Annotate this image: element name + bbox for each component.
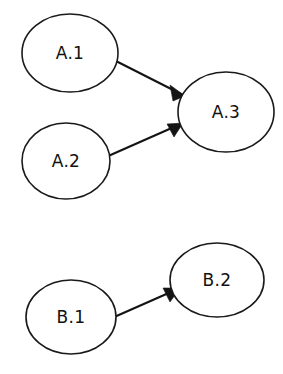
node-b2[interactable]: B.2 [170, 243, 264, 317]
node-a3-label: A.3 [212, 102, 240, 122]
graph-svg: A.1 A.2 A.3 B.1 B.2 [0, 0, 283, 374]
edge-b1-to-b2[interactable] [112, 288, 180, 318]
node-b1[interactable]: B.1 [26, 280, 116, 354]
edge-a2-to-a3[interactable] [106, 123, 183, 157]
edge-a1-to-a3[interactable] [110, 58, 185, 101]
node-a2[interactable]: A.2 [22, 123, 110, 199]
node-a1[interactable]: A.1 [22, 14, 118, 92]
node-b2-label: B.2 [203, 270, 232, 290]
node-b1-label: B.1 [57, 307, 86, 327]
diagram-canvas: A.1 A.2 A.3 B.1 B.2 [0, 0, 283, 374]
node-a1-label: A.1 [56, 43, 84, 63]
node-a2-label: A.2 [52, 151, 80, 171]
node-a3[interactable]: A.3 [178, 72, 274, 152]
